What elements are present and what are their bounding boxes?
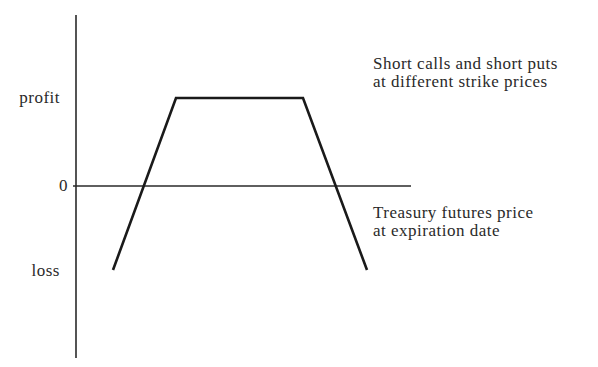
x-axis-label: Treasury futures price at expiration dat… [373, 204, 534, 240]
payoff-line [113, 98, 367, 270]
strategy-annotation-line2: at different strike prices [373, 73, 558, 91]
y-label-loss: loss [8, 262, 60, 280]
y-label-zero: 0 [8, 177, 68, 195]
strategy-annotation: Short calls and short puts at different … [373, 55, 558, 91]
strategy-annotation-line1: Short calls and short puts [373, 55, 558, 73]
x-axis-label-line1: Treasury futures price [373, 204, 534, 222]
x-axis-label-line2: at expiration date [373, 222, 534, 240]
y-label-profit: profit [8, 89, 60, 107]
